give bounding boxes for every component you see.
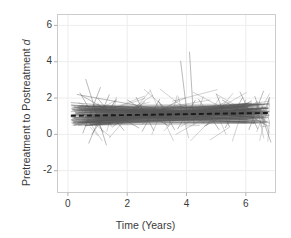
y-axis-label-symbol: d bbox=[20, 40, 32, 46]
trajectory-line bbox=[210, 127, 230, 140]
y-tick-label: 6 bbox=[28, 19, 52, 30]
trajectory-line bbox=[186, 125, 200, 126]
y-tick-label: 0 bbox=[28, 128, 52, 139]
chart-figure: Pretreatment to Postreatment d Time (Yea… bbox=[0, 0, 291, 238]
y-tick-label: 4 bbox=[28, 55, 52, 66]
y-tick-label: -2 bbox=[28, 164, 52, 175]
x-tick-label: 2 bbox=[115, 198, 139, 209]
x-tick-label: 6 bbox=[234, 198, 258, 209]
y-tick-label: 2 bbox=[28, 92, 52, 103]
trajectory-line bbox=[268, 103, 269, 119]
x-axis-label: Time (Years) bbox=[0, 219, 291, 231]
x-tick-label: 0 bbox=[56, 198, 80, 209]
x-tick-label: 4 bbox=[175, 198, 199, 209]
y-axis-label-wrapper: Pretreatment to Postreatment d bbox=[0, 0, 30, 200]
trajectory-line bbox=[172, 90, 217, 102]
